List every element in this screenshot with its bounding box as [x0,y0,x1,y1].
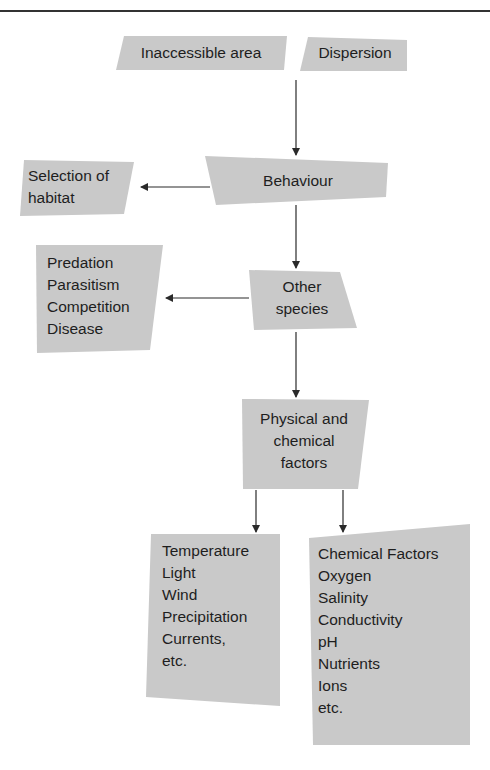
item-precipitation: Precipitation [162,606,249,628]
label-chemical-list: Chemical Factors Oxygen Salinity Conduct… [318,543,439,719]
item-disease: Disease [47,318,130,340]
line: chemical [244,430,364,452]
item-chemical-factors: Chemical Factors [318,543,439,565]
line: habitat [28,187,109,209]
item-etc: etc. [162,650,249,672]
line: Other [254,276,350,298]
item-competition: Competition [47,296,130,318]
line: species [254,298,350,320]
item-wind: Wind [162,584,249,606]
item-oxygen: Oxygen [318,565,439,587]
label-physical-list: Temperature Light Wind Precipitation Cur… [162,540,249,672]
line: Selection of [28,165,109,187]
label-inaccessible-area: Inaccessible area [116,42,286,64]
item-temperature: Temperature [162,540,249,562]
label-physical-chemical: Physical and chemical factors [244,408,364,474]
label-selection-of-habitat: Selection of habitat [28,165,109,209]
item-nutrients: Nutrients [318,653,439,675]
item-salinity: Salinity [318,587,439,609]
item-ph: pH [318,631,439,653]
item-predation: Predation [47,252,130,274]
item-light: Light [162,562,249,584]
label-dispersion: Dispersion [302,42,408,64]
item-etc: etc. [318,697,439,719]
label-interactions-list: Predation Parasitism Competition Disease [47,252,130,340]
line: factors [244,452,364,474]
item-ions: Ions [318,675,439,697]
item-currents: Currents, [162,628,249,650]
item-conductivity: Conductivity [318,609,439,631]
label-behaviour: Behaviour [210,170,386,192]
line: Physical and [244,408,364,430]
label-other-species: Other species [254,276,350,320]
item-parasitism: Parasitism [47,274,130,296]
